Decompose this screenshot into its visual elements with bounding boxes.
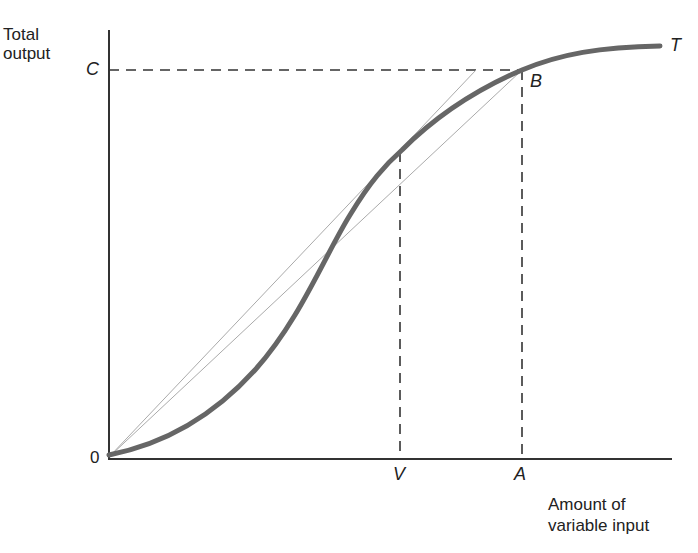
- tangent-ray: [109, 70, 476, 457]
- diagram-canvas: [0, 0, 698, 553]
- b-label: B: [530, 72, 542, 91]
- origin-label: 0: [90, 448, 99, 467]
- x-axis-label-line1: Amount of: [548, 495, 626, 514]
- x-axis-label-line2: variable input: [548, 516, 649, 535]
- t-label: T: [670, 36, 681, 55]
- c-label: C: [86, 60, 99, 79]
- a-label: A: [514, 465, 526, 484]
- total-product-curve: [109, 46, 660, 455]
- v-label: V: [393, 465, 405, 484]
- ray-to-b: [109, 70, 522, 457]
- y-axis-label-line2: output: [3, 44, 50, 63]
- y-axis-label-line1: Total: [3, 25, 39, 44]
- total-product-diagram: Total output C 0 B T V A Amount of varia…: [0, 0, 698, 553]
